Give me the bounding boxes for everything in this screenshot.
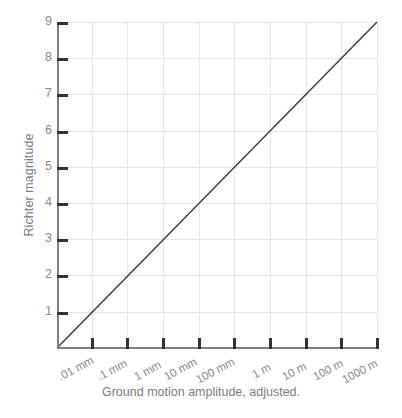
x-axis-title: Ground motion amplitude, adjusted. xyxy=(0,385,402,399)
data-line-series xyxy=(57,22,377,349)
x-tick-label: 1000 m xyxy=(340,357,380,386)
x-tick-label: .1 mm xyxy=(95,357,129,383)
y-axis-tick xyxy=(57,239,68,242)
gridline-vertical xyxy=(377,22,378,348)
y-axis-title: Richter magnitude xyxy=(22,15,40,355)
x-tick-label: 10 mm xyxy=(162,355,199,382)
x-axis-tick xyxy=(233,338,236,349)
x-tick-label: 100 m xyxy=(311,357,345,383)
x-axis-tick xyxy=(126,338,129,349)
x-axis-tick xyxy=(198,338,201,349)
x-axis-tick xyxy=(269,338,272,349)
x-axis-tick xyxy=(376,338,379,349)
y-axis-tick xyxy=(57,312,68,315)
y-axis-tick xyxy=(57,94,68,97)
x-axis-tick xyxy=(305,338,308,349)
x-tick-label: 100 mm xyxy=(194,355,236,385)
x-tick-label: 1 mm xyxy=(132,359,163,383)
y-axis-tick xyxy=(57,167,68,170)
x-tick-label: .01 mm xyxy=(56,354,95,383)
plot-area xyxy=(57,22,377,348)
x-tick-label: 10 m xyxy=(280,360,308,383)
y-axis-tick xyxy=(57,22,68,25)
x-axis-tick xyxy=(91,338,94,349)
richter-magnitude-chart: Richter magnitude xyxy=(0,0,402,418)
x-axis-spine xyxy=(57,347,378,349)
x-axis-tick xyxy=(162,338,165,349)
y-axis-tick xyxy=(57,275,68,278)
x-tick-label: 1 m xyxy=(250,361,273,381)
x-axis-tick xyxy=(340,338,343,349)
y-axis-tick xyxy=(57,203,68,206)
y-axis-tick xyxy=(57,131,68,134)
y-axis-spine xyxy=(57,22,59,349)
y-axis-tick xyxy=(57,58,68,61)
